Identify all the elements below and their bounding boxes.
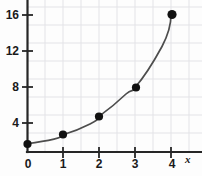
data-point xyxy=(23,140,31,148)
chart-plot-area xyxy=(0,0,202,176)
y-tick-label-12: 12 xyxy=(0,45,19,57)
data-point xyxy=(132,83,140,91)
x-tick-label-4: 4 xyxy=(162,158,182,170)
x-tick-label-0: 0 xyxy=(18,158,38,170)
y-tick-label-8: 8 xyxy=(0,81,19,93)
x-tick-label-1: 1 xyxy=(53,158,73,170)
chart-figure: 16 12 8 4 0 1 2 3 4 x xyxy=(0,0,202,176)
y-tick-label-4: 4 xyxy=(0,117,19,129)
x-tick-label-3: 3 xyxy=(125,158,145,170)
y-tick-label-16: 16 xyxy=(0,9,19,21)
data-point xyxy=(95,112,103,120)
x-axis-label: x xyxy=(185,154,191,165)
x-tick-label-2: 2 xyxy=(89,158,109,170)
data-point xyxy=(167,10,176,19)
data-point xyxy=(59,130,67,138)
axis-lines xyxy=(27,0,202,152)
grid-lines xyxy=(27,0,202,152)
